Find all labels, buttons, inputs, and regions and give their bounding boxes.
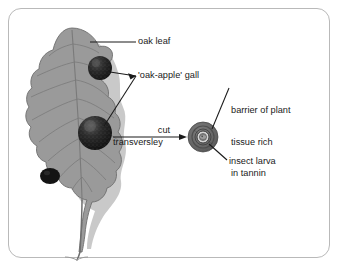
- oak-gall-diagram: oak leaf 'oak-apple' gall cut transversl…: [0, 0, 340, 268]
- label-tannin-barrier-line2: tissue rich: [231, 137, 291, 148]
- label-transversely: transversley: [113, 137, 163, 148]
- insect-larva-body: [199, 133, 206, 140]
- label-tannin-barrier-line1: barrier of plant: [231, 105, 291, 116]
- label-oak-leaf: oak leaf: [138, 36, 170, 47]
- label-cut: cut: [138, 125, 190, 136]
- label-insect-larva: insect larva: [229, 156, 276, 167]
- label-tannin-barrier-line3: in tannin: [231, 168, 291, 179]
- label-tannin-barrier: barrier of plant tissue rich in tannin: [231, 84, 291, 200]
- label-oak-apple-gall: 'oak-apple' gall: [138, 70, 199, 81]
- leader-barrier: [212, 88, 229, 129]
- gall-upper: [88, 56, 112, 80]
- leader-insect-larva: [209, 144, 227, 160]
- gall-lower-partial: [40, 168, 60, 184]
